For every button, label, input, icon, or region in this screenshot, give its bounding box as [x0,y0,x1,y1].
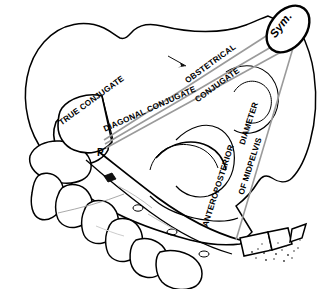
pelvis-diagram-figure: TRUE CONJUGATE OBSTETRICAL CONJUGATE DIA… [0,0,332,289]
coccyx-tip-block-2 [268,228,292,250]
coccyx-tip-apex [290,224,306,242]
sacral-foramen-5 [199,251,209,257]
pelvis-illustration [0,0,332,289]
coccyx-segment-2 [156,250,202,289]
